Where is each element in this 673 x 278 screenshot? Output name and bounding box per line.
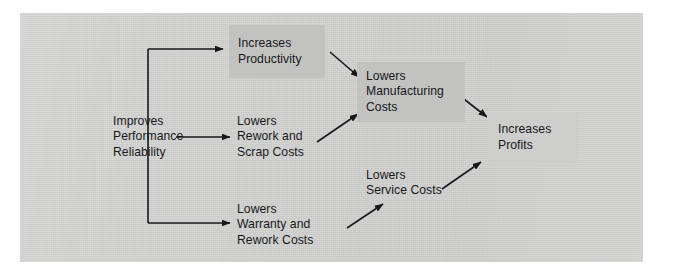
node-lowers-warranty-and-rework-costs: Lowers Warranty and Rework Costs: [237, 200, 342, 250]
node-label: Lowers Warranty and Rework Costs: [237, 202, 342, 248]
node-lowers-rework-and-scrap-costs: Lowers Rework and Scrap Costs: [237, 112, 337, 162]
node-label: Lowers Manufacturing Costs: [366, 69, 465, 115]
node-label: Lowers Rework and Scrap Costs: [237, 114, 337, 160]
node-lowers-manufacturing-costs: Lowers Manufacturing Costs: [357, 62, 465, 122]
node-lowers-service-costs: Lowers Service Costs: [366, 166, 466, 200]
connector-lowers-warranty-and-rework-costs-to-lowers-service-costs: [347, 204, 383, 228]
connector-increases-productivity-to-lowers-manufacturing-costs: [330, 52, 359, 77]
node-increases-profits: Increases Profits: [487, 112, 578, 163]
node-improves-performance-reliability: Improves Performance Reliability: [113, 112, 218, 162]
figure-canvas: Improves Performance Reliability Increas…: [0, 0, 673, 278]
node-label: Improves Performance Reliability: [113, 114, 218, 160]
node-label: Increases Profits: [498, 122, 578, 152]
node-increases-productivity: Increases Productivity: [229, 25, 325, 78]
node-label: Increases Productivity: [238, 36, 325, 66]
node-label: Lowers Service Costs: [366, 168, 466, 198]
